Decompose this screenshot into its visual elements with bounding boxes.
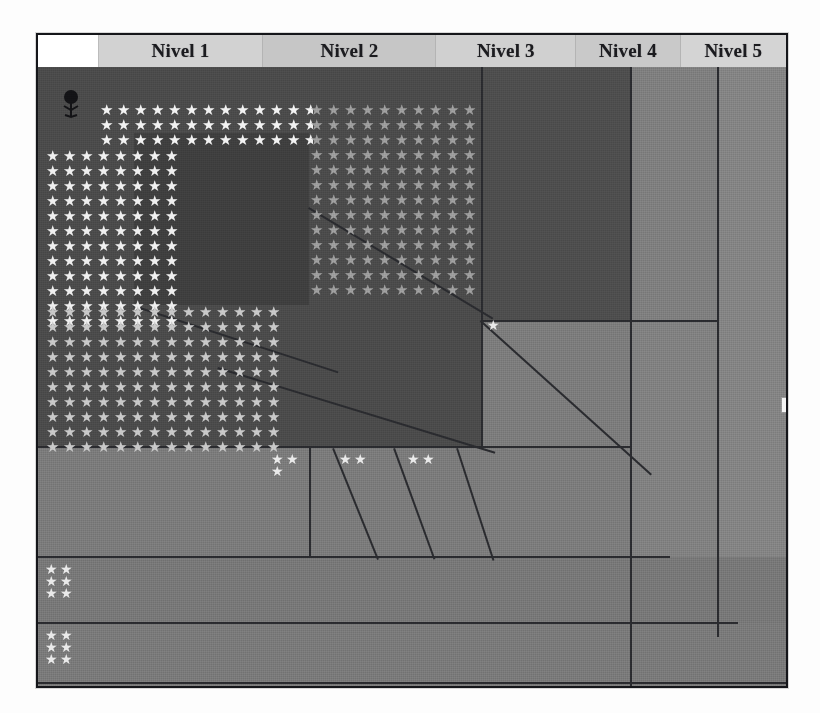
- star-row: ★★★★★★★★: [44, 269, 189, 284]
- star-marker: ★: [146, 410, 163, 425]
- star-marker: ★: [214, 335, 231, 350]
- star-marker: ★: [325, 163, 342, 178]
- star-marker: ★: [132, 133, 149, 148]
- star-row: ★★★★★★★★★★: [308, 118, 483, 133]
- star-marker: ★: [78, 179, 95, 194]
- star-marker: ★: [410, 118, 427, 133]
- star-marker: ★: [342, 223, 359, 238]
- star-marker: ★: [325, 268, 342, 283]
- star-marker: ★: [44, 440, 61, 455]
- star-marker: ★: [95, 239, 112, 254]
- tab-nivel-2[interactable]: Nivel 2: [263, 35, 436, 67]
- star-marker: ★: [444, 103, 461, 118]
- star-marker: ★: [359, 253, 376, 268]
- star-marker: ★: [112, 239, 129, 254]
- star-marker: ★: [461, 148, 478, 163]
- star-marker: ★: [461, 223, 478, 238]
- star-marker: ★: [132, 103, 149, 118]
- star-marker: ★: [214, 395, 231, 410]
- star-marker: ★: [95, 305, 112, 320]
- star-marker: ★: [98, 133, 115, 148]
- tab-strip: Nivel 1 Nivel 2 Nivel 3 Nivel 4 Nivel 5: [38, 35, 786, 67]
- star-marker: ★: [180, 380, 197, 395]
- star-marker: ★: [163, 254, 180, 269]
- star-marker: ★: [132, 118, 149, 133]
- scene-canvas[interactable]: ★★★★★★★★★★★★★★★★★★★★★★★★★★★★★★★★★★★★★★★ …: [38, 67, 786, 686]
- star-marker: ★: [376, 178, 393, 193]
- star-marker: ★: [308, 283, 325, 298]
- star-marker: ★: [265, 410, 282, 425]
- tab-nivel-5[interactable]: Nivel 5: [681, 35, 786, 67]
- scroll-thumb[interactable]: [781, 397, 786, 413]
- star-marker: ★: [112, 440, 129, 455]
- star-marker: ★: [248, 365, 265, 380]
- star-marker: ★: [112, 224, 129, 239]
- star-marker: ★: [78, 335, 95, 350]
- star-marker: ★: [376, 208, 393, 223]
- tab-nivel-4-label: Nivel 4: [599, 40, 657, 62]
- star-marker: ★: [427, 178, 444, 193]
- tab-nivel-4[interactable]: Nivel 4: [576, 35, 680, 67]
- star-row: ★★★★★★★★★★★★★★: [44, 365, 294, 380]
- star-marker: ★: [342, 283, 359, 298]
- tab-nivel-1[interactable]: Nivel 1: [99, 35, 264, 67]
- star-marker: ★: [180, 440, 197, 455]
- star-marker: ★: [112, 410, 129, 425]
- star-marker: ★: [444, 148, 461, 163]
- star-row: ★★★★★★★★★★: [308, 283, 483, 298]
- star-marker: ★: [410, 148, 427, 163]
- star-marker: ★: [217, 103, 234, 118]
- star-marker: ★: [61, 164, 78, 179]
- star-row: ★★★★★★★★★★★★★★: [44, 335, 294, 350]
- star-marker: ★: [376, 148, 393, 163]
- star-marker: ★: [197, 335, 214, 350]
- star-row: ★★★★★★★★★★★★★★: [44, 395, 294, 410]
- star-marker: ★: [129, 335, 146, 350]
- star-marker: ★: [325, 193, 342, 208]
- star-marker: ★: [44, 209, 61, 224]
- star-marker: ★: [44, 380, 61, 395]
- star-row: ★★★★★★★★: [44, 209, 189, 224]
- star-marker: ★: [325, 178, 342, 193]
- star-marker: ★: [268, 118, 285, 133]
- starfield-top-left: ★★★★★★★★★★★★★★★★★★★★★★★★★★★★★★★★★★★★★★★: [98, 103, 313, 149]
- star-row: ★★★★★★★★★★★★★★: [44, 440, 294, 455]
- star-marker: ★: [285, 454, 300, 465]
- star-marker: ★: [265, 365, 282, 380]
- star-marker: ★: [78, 320, 95, 335]
- star-marker: ★: [461, 163, 478, 178]
- star-marker: ★: [393, 178, 410, 193]
- star-marker: ★: [359, 283, 376, 298]
- star-marker: ★: [197, 410, 214, 425]
- star-marker: ★: [146, 194, 163, 209]
- tab-nivel-3-label: Nivel 3: [477, 40, 535, 62]
- star-marker: ★: [61, 209, 78, 224]
- star-marker: ★: [444, 133, 461, 148]
- star-marker: ★: [163, 239, 180, 254]
- star-marker: ★: [197, 425, 214, 440]
- star-marker: ★: [78, 209, 95, 224]
- star-row: ★★★★★★★★★★: [308, 103, 483, 118]
- star-marker: ★: [265, 335, 282, 350]
- star-marker: ★: [285, 103, 302, 118]
- star-marker: ★: [163, 335, 180, 350]
- tab-blank[interactable]: [38, 35, 99, 67]
- star-marker: ★: [231, 320, 248, 335]
- star-row: ★★★★★★★★: [44, 179, 189, 194]
- star-marker: ★: [251, 103, 268, 118]
- star-marker: ★: [444, 208, 461, 223]
- star-marker: ★: [393, 253, 410, 268]
- star-marker: ★: [44, 164, 61, 179]
- star-marker: ★: [359, 268, 376, 283]
- starfield-left: ★★★★★★★★★★★★★★★★★★★★★★★★★★★★★★★★★★★★★★★★…: [44, 149, 189, 329]
- star-marker: ★: [342, 103, 359, 118]
- star-marker: ★: [44, 239, 61, 254]
- star-row: ★★★★★★★★★★: [308, 238, 483, 253]
- tab-nivel-3[interactable]: Nivel 3: [436, 35, 576, 67]
- star-row: ★★★★★★★★★★: [308, 193, 483, 208]
- star-marker: ★: [78, 149, 95, 164]
- star-marker: ★: [393, 133, 410, 148]
- star-marker: ★: [115, 133, 132, 148]
- star-marker: ★: [95, 380, 112, 395]
- star-marker: ★: [410, 283, 427, 298]
